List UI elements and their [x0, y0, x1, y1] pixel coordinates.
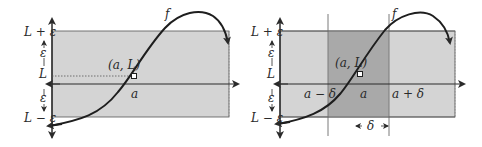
epsilon-band	[52, 31, 229, 117]
y-label-L: L	[266, 67, 275, 81]
y-label-upper: L + ε	[250, 25, 283, 39]
epsilon-delta-figure: f (a, L) a L + ε ε L ε L − ε	[0, 0, 482, 147]
right-panel: f (a, L) a − δ a a + δ δ L + ε ε L ε L −…	[250, 7, 464, 138]
x-label-a-minus-delta: a − δ	[304, 87, 336, 101]
curve-label-f: f	[164, 7, 172, 21]
point-a-L	[358, 72, 363, 77]
x-label-a: a	[360, 87, 367, 101]
x-label-a: a	[131, 87, 138, 101]
y-label-eps-top: ε	[268, 46, 274, 60]
y-label-eps-top: ε	[40, 46, 46, 60]
y-label-eps-bottom: ε	[40, 91, 46, 105]
point-label: (a, L)	[335, 56, 367, 70]
point-a-L	[132, 74, 137, 79]
y-label-lower: L − ε	[23, 111, 56, 125]
y-label-lower: L − ε	[250, 111, 283, 125]
point-label: (a, L)	[108, 58, 140, 72]
left-panel: f (a, L) a L + ε ε L ε L − ε	[23, 7, 238, 138]
y-label-upper: L + ε	[23, 25, 56, 39]
y-label-L: L	[38, 67, 47, 81]
x-label-a-plus-delta: a + δ	[392, 87, 424, 101]
delta-label: δ	[367, 119, 374, 133]
y-label-eps-bottom: ε	[268, 91, 274, 105]
